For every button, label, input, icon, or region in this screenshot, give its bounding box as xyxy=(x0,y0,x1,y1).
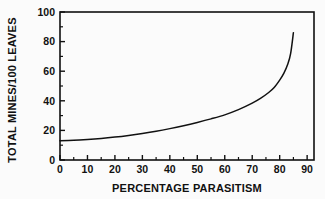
y-tick-label: 0 xyxy=(49,154,55,166)
x-axis-title: PERCENTAGE PARASITISM xyxy=(112,182,262,194)
x-tick-label: 20 xyxy=(109,163,121,175)
x-tick-label: 60 xyxy=(219,163,231,175)
x-tick-label: 90 xyxy=(301,163,313,175)
x-tick-label: 0 xyxy=(57,163,63,175)
y-tick-label: 40 xyxy=(43,95,55,107)
x-tick-label: 40 xyxy=(164,163,176,175)
x-tick-label: 50 xyxy=(191,163,203,175)
y-tick-label: 20 xyxy=(43,124,55,136)
y-axis-title: TOTAL MINES/100 LEAVES xyxy=(6,17,18,162)
y-tick-label: 60 xyxy=(43,65,55,77)
y-tick-label: 100 xyxy=(37,6,55,18)
x-tick-label: 70 xyxy=(246,163,258,175)
x-tick-label: 30 xyxy=(137,163,149,175)
chart-figure: 020406080100 0102030405060708090 PERCENT… xyxy=(0,0,325,199)
x-tick-label: 10 xyxy=(82,163,94,175)
y-tick-label: 80 xyxy=(43,35,55,47)
x-tick-label: 80 xyxy=(274,163,286,175)
line-chart: 020406080100 0102030405060708090 PERCENT… xyxy=(0,0,325,199)
